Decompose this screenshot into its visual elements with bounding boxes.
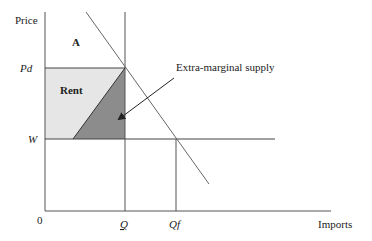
free-trade-quantity-label: Qf (169, 218, 182, 230)
annotation-arrow (119, 78, 174, 119)
import-quota-diagram: Price Imports 0 Pd W Q Qf A Rent Extra-m… (0, 0, 372, 241)
origin-label: 0 (37, 214, 43, 226)
y-axis-label: Price (15, 14, 38, 26)
x-axis-label: Imports (318, 218, 352, 230)
world-price-label: W (28, 133, 38, 145)
domestic-price-label: Pd (19, 62, 33, 74)
area-a-label: A (72, 36, 80, 48)
quota-label: Q (120, 218, 128, 230)
extra-marginal-supply-label: Extra-marginal supply (176, 61, 275, 73)
rent-label: Rent (60, 84, 83, 96)
